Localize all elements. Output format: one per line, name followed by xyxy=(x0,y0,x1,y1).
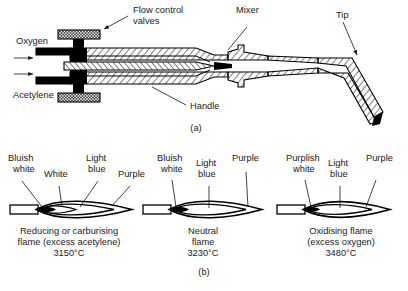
flame3-caption-line1: Oxidising flame xyxy=(309,226,373,236)
flame1-label-feather: White xyxy=(44,169,68,179)
upper-valve-seat xyxy=(70,48,87,62)
flame3-label-middle-line2: blue xyxy=(330,169,348,179)
flame1-caption-line2: flame (excess acetylene) xyxy=(18,237,121,247)
mixer-core xyxy=(64,62,214,70)
flame1-label-inner-cone-line1: Bluish xyxy=(8,153,33,163)
lower-valve-seat xyxy=(70,70,87,84)
flame3-label-middle-line1: Light xyxy=(328,158,349,168)
lower-valve-handwheel[interactable] xyxy=(58,93,100,102)
panel-b-caption: (b) xyxy=(198,267,209,277)
label-tip: Tip xyxy=(336,10,349,20)
label-oxygen: Oxygen xyxy=(16,36,48,46)
oxyacetylene-torch-figure: Oxygen Acetylene Flow control valves Mix… xyxy=(0,0,408,291)
flame1-label-inner-cone-line2: white xyxy=(12,164,35,174)
panel-a-caption: (a) xyxy=(190,123,201,133)
oxygen-inlet-tube xyxy=(36,48,70,55)
label-flow-control-valves-line1: Flow control xyxy=(133,5,183,15)
label-mixer: Mixer xyxy=(236,5,259,15)
upper-valve-handwheel[interactable] xyxy=(58,30,100,39)
flame2-label-outer: Purple xyxy=(232,153,259,163)
flame2-temperature: 3230°C xyxy=(187,248,218,258)
flame3-label-inner-cone-line1: Purplish xyxy=(286,153,320,163)
flame2-label-middle-line2: blue xyxy=(198,169,216,179)
flame2-caption-line1: Neutral xyxy=(188,226,218,236)
flame1-temperature: 3150°C xyxy=(53,248,84,258)
flame1-label-middle-line2: blue xyxy=(88,164,106,174)
flame2-label-middle-line1: Light xyxy=(196,158,217,168)
torch-body xyxy=(36,48,228,84)
flame3-caption-line2: (excess oxygen) xyxy=(307,237,375,247)
flame3-temperature: 3480°C xyxy=(325,248,356,258)
flame1-label-middle-line1: Light xyxy=(86,153,107,163)
label-flow-control-valves-line2: valves xyxy=(133,16,160,26)
flame3-label-inner-cone-line2: white xyxy=(292,164,315,174)
flame1-nozzle xyxy=(10,205,38,214)
flame2-nozzle xyxy=(143,205,171,214)
acetylene-inlet-tube xyxy=(36,77,70,84)
flame2-caption-line2: flame xyxy=(192,237,215,247)
label-handle: Handle xyxy=(190,101,219,111)
label-acetylene: Acetylene xyxy=(13,90,54,100)
flame3-nozzle xyxy=(277,205,305,214)
flame3-label-outer: Purple xyxy=(366,153,393,163)
flame1-caption-line1: Reducing or carburising xyxy=(20,226,118,236)
flame1-label-outer: Purple xyxy=(118,169,145,179)
flame2-label-inner-cone-line2: white xyxy=(160,164,183,174)
flame2-label-inner-cone-line1: Bluish xyxy=(157,153,182,163)
